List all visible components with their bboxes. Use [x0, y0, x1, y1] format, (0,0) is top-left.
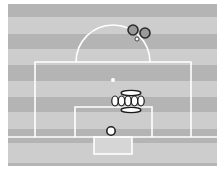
pitch-stripe [8, 81, 217, 97]
goal [94, 137, 132, 154]
pitch-stripe [8, 4, 217, 17]
wall-bottom-bar-icon [121, 107, 141, 112]
goalkeeper-icon [107, 127, 115, 135]
attacker-1-icon [128, 25, 138, 35]
football-pitch-diagram [0, 0, 223, 172]
wall-player-5-icon [138, 96, 144, 106]
wall-player-4-icon [131, 96, 137, 106]
pitch-stripe [8, 34, 217, 49]
wall-top-bar-icon [121, 90, 141, 95]
free-kick-ball-icon [135, 37, 139, 41]
attacker-2-icon [140, 28, 150, 38]
penalty-spot [111, 78, 115, 82]
pitch-stripe [8, 163, 217, 166]
wall-player-1-icon [112, 96, 118, 106]
wall-player-2-icon [118, 96, 124, 106]
wall-player-3-icon [125, 96, 131, 106]
